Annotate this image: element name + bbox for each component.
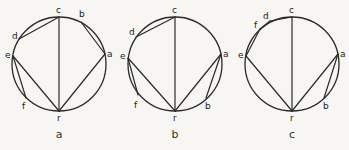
chord-d-f <box>260 21 270 29</box>
diagram-a: cbadefra <box>5 5 113 141</box>
point-label-f: f <box>254 20 258 30</box>
point-label-c: c <box>289 5 294 15</box>
point-label-f: f <box>22 101 26 111</box>
point-label-c: c <box>56 5 61 15</box>
point-label-d: d <box>129 27 135 37</box>
point-label-d: d <box>263 11 269 21</box>
chord-e-r <box>13 56 59 111</box>
circle-chord-diagrams: cbadefra cdefrbab cdferbac <box>0 0 349 150</box>
diagram-caption: a <box>56 128 63 141</box>
point-label-e: e <box>120 51 126 61</box>
point-label-c: c <box>172 5 177 15</box>
point-label-b: b <box>323 101 329 111</box>
chord-b-a <box>81 22 105 54</box>
point-label-e: e <box>5 50 11 60</box>
point-label-r: r <box>57 113 61 123</box>
point-label-r: r <box>173 113 177 123</box>
diagram-c: cdferbac <box>238 5 346 141</box>
chord-a-r <box>175 54 221 111</box>
chord-e-f <box>13 56 26 98</box>
point-label-a: a <box>340 49 346 59</box>
chord-a-b <box>324 54 338 98</box>
point-label-b: b <box>205 101 211 111</box>
diagram-caption: b <box>172 128 179 141</box>
chord-c-d <box>136 17 175 37</box>
point-label-a: a <box>223 49 229 59</box>
point-label-b: b <box>79 9 85 19</box>
chord-a-r <box>59 54 105 111</box>
chord-c-d <box>19 17 59 39</box>
point-label-d: d <box>12 31 18 41</box>
chord-a-r <box>292 54 338 111</box>
diagram-b: cdefrbab <box>120 5 229 141</box>
point-label-f: f <box>134 100 138 110</box>
chord-f-e <box>246 29 260 56</box>
chord-c-d <box>270 17 292 21</box>
point-label-e: e <box>238 50 244 60</box>
point-label-r: r <box>290 113 294 123</box>
chord-e-r <box>246 56 292 111</box>
diagram-caption: c <box>289 128 295 141</box>
point-label-a: a <box>107 49 113 59</box>
